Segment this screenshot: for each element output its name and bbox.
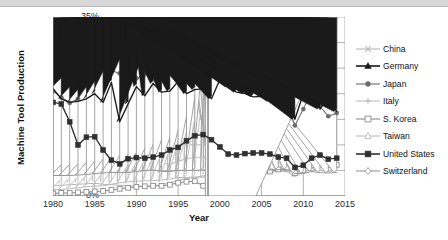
legend-label: Germany: [381, 61, 418, 71]
legend-item-china[interactable]: China: [355, 40, 447, 58]
x-tick-label: 2005: [242, 199, 282, 209]
legend-marker-square-open-icon: [355, 112, 381, 126]
legend-marker-plus-icon: [355, 94, 381, 108]
legend-marker-circle-icon: [355, 77, 381, 91]
x-axis-title: Year: [53, 212, 345, 223]
legend-item-s-korea[interactable]: S. Korea: [355, 110, 447, 128]
top-divider: [0, 6, 448, 7]
x-tick-label: 2000: [200, 199, 240, 209]
x-tick-label: 1980: [33, 199, 73, 209]
x-tick-label: 2010: [283, 199, 323, 209]
chart-canvas: [53, 17, 345, 196]
legend-label: Italy: [381, 96, 399, 106]
legend-label: Japan: [381, 79, 406, 89]
legend-item-switzerland[interactable]: Switzerland: [355, 163, 447, 181]
y-axis-title-wrap: Machine Tool Production: [2, 40, 16, 180]
x-tick-label: 2015: [325, 199, 365, 209]
legend-marker-x-icon: [355, 42, 381, 56]
legend-item-taiwan[interactable]: Taiwan: [355, 128, 447, 146]
legend-label: S. Korea: [381, 114, 416, 124]
chart-legend: ChinaGermanyJapanItalyS. KoreaTaiwanUnit…: [355, 40, 447, 180]
x-tick-label: 1995: [158, 199, 198, 209]
legend-label: Taiwan: [381, 131, 410, 141]
plot-area: [53, 17, 345, 196]
legend-label: Switzerland: [381, 166, 427, 176]
chart-screenshot: Machine Tool Production 0%5%10%15%20%25%…: [0, 0, 448, 240]
legend-marker-triangle-icon: [355, 59, 381, 73]
y-axis-title: Machine Tool Production: [15, 28, 26, 188]
x-tick-label: 1985: [75, 199, 115, 209]
legend-marker-square-icon: [355, 147, 381, 161]
legend-item-germany[interactable]: Germany: [355, 58, 447, 76]
legend-item-japan[interactable]: Japan: [355, 75, 447, 93]
legend-marker-triangle-open-icon: [355, 129, 381, 143]
legend-label: United States: [381, 149, 435, 159]
legend-label: China: [381, 44, 405, 54]
legend-item-united-states[interactable]: United States: [355, 145, 447, 163]
x-tick-label: 1990: [116, 199, 156, 209]
legend-item-italy[interactable]: Italy: [355, 93, 447, 111]
legend-marker-diamond-icon: [355, 164, 381, 178]
